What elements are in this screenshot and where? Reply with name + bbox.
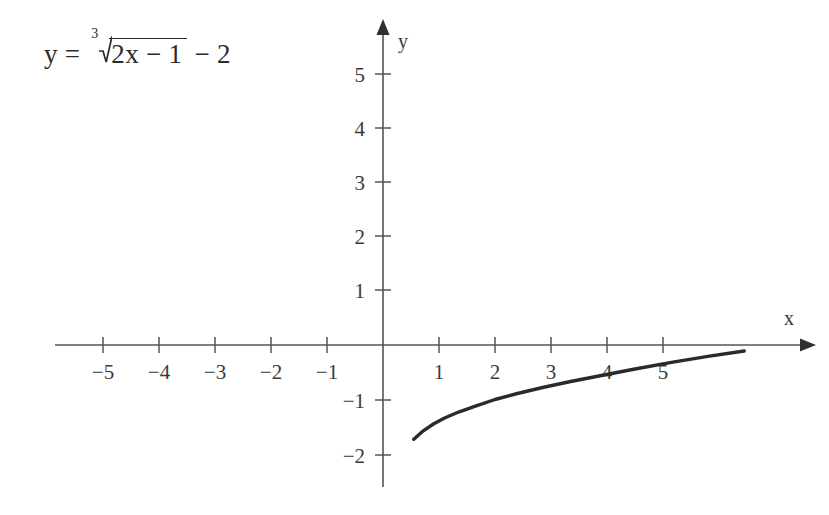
y-tick-label: −2 [343,444,365,468]
y-tick-label: −1 [343,389,365,413]
equation-lhs: y [44,39,58,69]
x-axis-group: x [55,307,816,352]
x-tick-label: −3 [204,360,226,384]
y-axis-arrowhead-icon [377,19,390,35]
cube-root-radical: 32x − 1 [89,38,187,68]
radical-index: 3 [91,27,98,41]
y-tick-label: 2 [355,225,366,249]
y-tick-label: 5 [355,63,366,87]
y-tick-label: 4 [355,117,366,141]
x-tick-label: 2 [490,360,501,384]
x-tick-label: 3 [546,360,557,384]
x-tick-label: −5 [92,360,114,384]
y-axis-group: y [377,19,409,487]
y-tick-label: 1 [355,279,366,303]
equation-tail: − 2 [194,39,230,69]
y-axis-label: y [398,30,408,53]
coordinate-plane: x y −5 −4 −3 −2 −1 1 2 3 [0,0,829,515]
graph-figure: y=32x − 1− 2 x y −5 −4 −3 [0,0,829,515]
y-tick-label: 3 [355,171,366,195]
radical-sign-icon [99,36,112,63]
x-axis-label: x [784,307,794,329]
x-axis-arrowhead-icon [800,339,816,352]
radicand: 2x − 1 [109,38,187,68]
x-tick-label: −1 [316,360,338,384]
function-curve [414,351,744,439]
x-tick-label: −2 [260,360,282,384]
y-axis-tick-labels: 5 4 3 2 1 −1 −2 [343,63,366,468]
equation-equals-sign: = [65,39,81,69]
x-tick-label: −4 [148,360,171,384]
x-tick-label: 1 [434,360,445,384]
equation-label: y=32x − 1− 2 [44,38,231,68]
